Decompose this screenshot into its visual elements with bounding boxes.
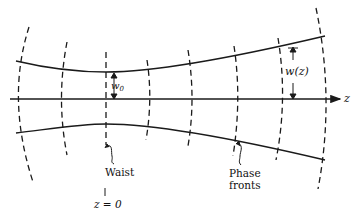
axis-label-z: z (343, 92, 350, 105)
phase-front-1 (18, 27, 33, 182)
phase-front-4 (146, 60, 150, 140)
waist-pointer (105, 144, 114, 164)
origin-label: z = 0 (93, 198, 122, 210)
waist-radius-label: w0 (111, 80, 125, 93)
waist-label: Waist (105, 166, 135, 178)
beam-radius-label: w(z) (285, 65, 309, 78)
phase-fronts-label-line1: Phase (229, 167, 261, 179)
gaussian-beam-diagram: z w0 w(z) Waist z = 0 (0, 0, 360, 213)
phase-fronts-pointer (236, 141, 241, 165)
phase-fronts-label-line2: fronts (229, 179, 261, 191)
